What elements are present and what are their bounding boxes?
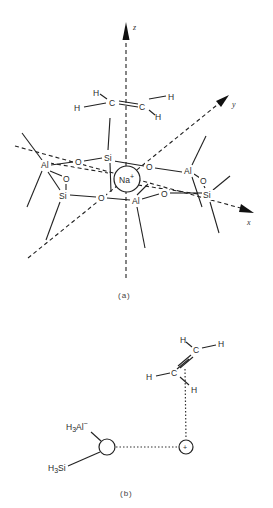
atom-si-top: Si	[104, 153, 112, 163]
part-b-caption: (b)	[120, 489, 133, 498]
atom-o: O	[98, 193, 105, 203]
atom-al-bottom: Al	[132, 196, 140, 206]
atom-al-left: Al	[41, 160, 49, 170]
atom-c-lower: C	[171, 368, 177, 378]
atom-c-left: C	[109, 98, 115, 108]
h3si-group-label: H3Si	[48, 463, 66, 474]
atom-h: H	[218, 339, 224, 349]
atom-h: H	[155, 112, 161, 122]
figure-canvas: z y x C C H H H H	[0, 0, 273, 508]
part-a-caption: (a)	[118, 291, 131, 300]
atom-h: H	[180, 335, 186, 345]
x-axis-label: x	[246, 218, 251, 227]
atom-c-upper: C	[193, 345, 199, 355]
part-a-diagram: z y x C C H H H H	[15, 22, 254, 300]
atom-o: O	[200, 176, 207, 186]
z-axis-arrowhead	[123, 22, 130, 40]
atom-h: H	[191, 385, 197, 395]
atom-si-right: Si	[203, 190, 211, 200]
atom-c-right: C	[139, 102, 145, 112]
z-axis-label: z	[132, 23, 137, 32]
atom-o: O	[75, 157, 82, 167]
atom-o: O	[146, 162, 153, 172]
atom-h: H	[74, 103, 80, 113]
part-b-diagram: C C H H H H + H3Al− H3Si (b)	[48, 335, 224, 498]
atom-h: H	[168, 92, 174, 102]
atom-si-left: Si	[59, 191, 67, 201]
atom-o: O	[161, 189, 168, 199]
atom-h: H	[93, 88, 99, 98]
y-axis-label: y	[231, 100, 236, 109]
atom-h: H	[146, 372, 152, 382]
y-axis-arrowhead	[216, 95, 229, 107]
cation-plus: +	[183, 444, 187, 451]
pi-cation-interaction	[185, 369, 186, 439]
oxygen-circle	[99, 439, 115, 455]
atom-al-right: Al	[184, 166, 192, 176]
x-axis-arrowhead	[239, 204, 254, 213]
h3al-group-label: H3Al−	[66, 420, 88, 433]
atom-o: O	[63, 174, 70, 184]
